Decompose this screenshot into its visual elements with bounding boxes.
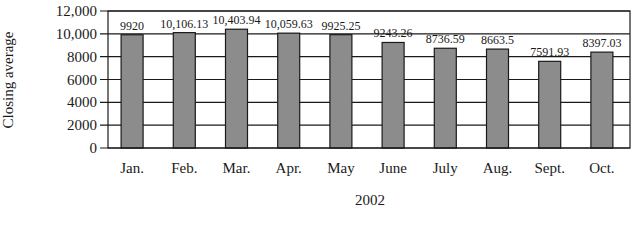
x-tick-label: Jan. bbox=[120, 160, 144, 176]
y-tick-label: 8000 bbox=[67, 49, 97, 65]
y-tick-label: 0 bbox=[90, 140, 98, 156]
bar bbox=[121, 35, 143, 148]
y-axis-label: Closing average bbox=[0, 31, 17, 128]
bar bbox=[434, 48, 456, 148]
y-tick-label: 10,000 bbox=[56, 26, 97, 42]
bar bbox=[382, 42, 404, 148]
y-axis-ticks: 0200040006000800010,00012,000 bbox=[56, 3, 97, 156]
x-axis-label: 2002 bbox=[355, 192, 385, 209]
data-label: 10,106.13 bbox=[160, 17, 208, 31]
data-label: 10,059.63 bbox=[265, 17, 313, 31]
x-tick-label: Aug. bbox=[483, 160, 513, 176]
y-tick-label: 12,000 bbox=[56, 3, 97, 19]
x-tick-label: Oct. bbox=[589, 160, 614, 176]
x-tick-label: May bbox=[327, 160, 355, 176]
x-tick-label: Sept. bbox=[534, 160, 564, 176]
bar bbox=[330, 35, 352, 148]
y-tick-label: 4000 bbox=[67, 94, 97, 110]
bar bbox=[173, 33, 195, 148]
x-tick-label: July bbox=[433, 160, 459, 176]
bar bbox=[539, 61, 561, 148]
bar bbox=[226, 29, 248, 148]
data-label: 9925.25 bbox=[321, 19, 360, 33]
data-label: 8663.5 bbox=[481, 33, 514, 47]
x-tick-label: Apr. bbox=[276, 160, 302, 176]
bar bbox=[591, 52, 613, 148]
data-label: 9243.26 bbox=[374, 26, 413, 40]
data-label: 7591.93 bbox=[530, 45, 569, 59]
bar-chart: 0200040006000800010,00012,000 Jan.Feb.Ma… bbox=[0, 0, 639, 226]
x-axis-ticks: Jan.Feb.Mar.Apr.MayJuneJulyAug.Sept.Oct. bbox=[120, 160, 614, 176]
y-tick-label: 2000 bbox=[67, 117, 97, 133]
data-label: 8736.59 bbox=[426, 32, 465, 46]
bar bbox=[278, 33, 300, 148]
y-tick-label: 6000 bbox=[67, 72, 97, 88]
bar bbox=[487, 49, 509, 148]
x-tick-label: June bbox=[379, 160, 407, 176]
data-label: 10,403.94 bbox=[213, 13, 261, 27]
data-label: 8397.03 bbox=[582, 36, 621, 50]
x-tick-label: Mar. bbox=[223, 160, 251, 176]
data-label: 9920 bbox=[120, 19, 144, 33]
x-tick-label: Feb. bbox=[171, 160, 197, 176]
